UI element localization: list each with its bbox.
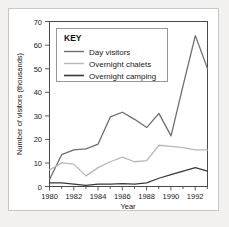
x-tick-label: 1980 [41, 192, 58, 201]
legend-label-overnight-chalets: Overnight chalets [89, 60, 151, 69]
y-axis-title: Number of visitors (thousands) [15, 52, 24, 155]
x-axis-title: Year [120, 202, 136, 211]
legend-label-day-visitors: Day visitors [89, 48, 130, 57]
x-tick-label: 1984 [90, 192, 107, 201]
legend-title: KEY [64, 33, 82, 43]
x-tick-label: 1990 [163, 192, 180, 201]
x-axis: 1980 1982 1984 1986 1988 1990 1992 [41, 187, 207, 202]
y-tick-label: 20 [34, 135, 42, 144]
line-chart: 0 10 20 30 40 50 60 70 Number of visitor… [9, 9, 218, 210]
y-tick-label: 10 [34, 159, 42, 168]
x-tick-label: 1986 [114, 192, 131, 201]
x-tick-label: 1992 [187, 192, 204, 201]
legend-label-overnight-camping: Overnight camping [89, 72, 156, 81]
series-line-overnight-camping [50, 168, 208, 186]
y-tick-label: 50 [34, 65, 42, 74]
figure-frame: 0 10 20 30 40 50 60 70 Number of visitor… [8, 8, 219, 211]
y-axis: 0 10 20 30 40 50 60 70 [34, 18, 50, 192]
y-tick-label: 0 [38, 183, 42, 192]
y-tick-label: 70 [34, 18, 42, 27]
chart-svg: 0 10 20 30 40 50 60 70 Number of visitor… [9, 9, 218, 210]
y-tick-label: 60 [34, 41, 42, 50]
legend: KEY Day visitors Overnight chalets Overn… [57, 29, 168, 82]
y-tick-label: 40 [34, 88, 42, 97]
x-tick-label: 1982 [65, 192, 82, 201]
y-tick-label: 30 [34, 112, 42, 121]
x-tick-label: 1988 [138, 192, 155, 201]
